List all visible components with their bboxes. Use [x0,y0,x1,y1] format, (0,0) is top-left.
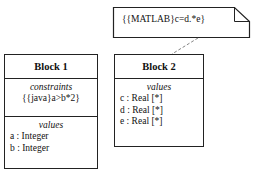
value-item-e: e : Real [*] [115,116,203,128]
block-1[interactable]: Block 1 constraints {{java}a>b*2} values… [4,54,98,169]
block-2-title: Block 2 [115,55,203,79]
block-2-values-compartment: values c : Real [*] d : Real [*] e : Rea… [115,79,203,128]
block-1-values-compartment: values a : Integer b : Integer [5,117,97,154]
values-label: values [5,119,97,131]
value-item-d: d : Real [*] [115,105,203,117]
constraints-label: constraints [5,81,97,93]
block-1-title: Block 1 [5,55,97,79]
value-item-c: c : Real [*] [115,93,203,105]
value-item-a: a : Integer [5,131,97,143]
note-text: {{MATLAB}c=d.*e} [122,14,205,24]
note-anchor-line [172,38,198,54]
values-label: values [115,81,203,93]
block-1-constraints-compartment: constraints {{java}a>b*2} [5,79,97,117]
block-2[interactable]: Block 2 values c : Real [*] d : Real [*]… [114,54,204,147]
value-item-b: b : Integer [5,143,97,155]
constraint-item: {{java}a>b*2} [5,93,97,105]
note-shape [0,0,255,60]
